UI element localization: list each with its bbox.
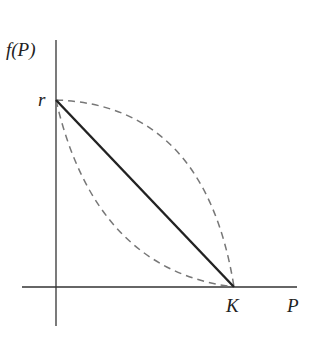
diagram-canvas: f(P) r K P: [0, 0, 324, 341]
growth-rate-diagram: f(P) r K P: [0, 0, 324, 341]
k-label: K: [225, 295, 240, 316]
y-axis-label: f(P): [6, 39, 36, 61]
r-label: r: [38, 89, 46, 110]
x-axis-label: P: [286, 295, 299, 316]
linear-solid-line: [56, 100, 234, 287]
